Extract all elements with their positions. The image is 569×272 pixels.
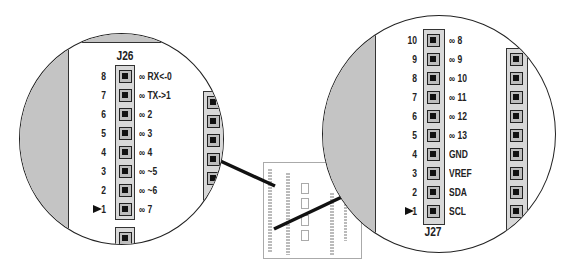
pin-pad bbox=[119, 70, 132, 83]
pin-number: 9 bbox=[398, 54, 417, 66]
pin-pad bbox=[119, 146, 132, 159]
header-title-j26: J26 bbox=[117, 49, 134, 63]
pin-label: ∞ RX<-0 bbox=[139, 71, 172, 83]
pin-pad bbox=[119, 89, 132, 102]
pin-pad bbox=[207, 115, 220, 128]
pin-label: ∞ 3 bbox=[139, 128, 152, 140]
pin-pad bbox=[427, 72, 440, 85]
pin-pad bbox=[510, 205, 523, 218]
pin-label: SCL bbox=[449, 206, 466, 218]
pin-pad bbox=[207, 172, 220, 185]
pin-pad bbox=[427, 53, 440, 66]
pin-number: 1 bbox=[398, 206, 417, 218]
pin-pad bbox=[119, 203, 132, 216]
pin-number: 5 bbox=[398, 130, 417, 142]
board-edge-left bbox=[20, 34, 69, 245]
pin-number: 6 bbox=[87, 109, 106, 121]
pin-label: ∞ 10 bbox=[449, 73, 467, 85]
pin-pad bbox=[207, 96, 220, 109]
pin-pad bbox=[510, 91, 523, 104]
pin-pad bbox=[427, 129, 440, 142]
pin-number: 4 bbox=[398, 149, 417, 161]
pin-number: 1 bbox=[87, 204, 106, 216]
pin-pad bbox=[510, 167, 523, 180]
pin-number: 7 bbox=[398, 92, 417, 104]
pin-number: 2 bbox=[87, 185, 106, 197]
board-edge-left bbox=[323, 16, 376, 253]
pin-label: ∞ 9 bbox=[449, 54, 462, 66]
left-magnifier-circle: J26 8 ∞ RX<-0 7 ∞ TX->1 6 ∞ 2 5 ∞ 3 4 ∞ … bbox=[19, 33, 224, 245]
pin-label: ∞ ~5 bbox=[139, 166, 157, 178]
pin-label: ∞ 12 bbox=[449, 111, 467, 123]
pin-label: ∞ 8 bbox=[449, 35, 462, 47]
pin-pad bbox=[510, 110, 523, 123]
header-title-j27: J27 bbox=[425, 225, 442, 239]
pin-label: ∞ 2 bbox=[139, 109, 152, 121]
pin-pad bbox=[207, 153, 220, 166]
pin-label: ∞ 11 bbox=[449, 92, 466, 104]
pin-number: 8 bbox=[87, 71, 106, 83]
pin-number: 3 bbox=[87, 166, 106, 178]
pin-number: 6 bbox=[398, 111, 417, 123]
pin-pad bbox=[119, 184, 132, 197]
pin-number: 3 bbox=[398, 168, 417, 180]
left-callout-line bbox=[216, 159, 275, 186]
pin-number: 2 bbox=[398, 187, 417, 199]
pin-label: ∞ 4 bbox=[139, 147, 152, 159]
pin-pad bbox=[119, 165, 132, 178]
pin-pad bbox=[207, 134, 220, 147]
pin-pad bbox=[510, 129, 523, 142]
pin-number: 7 bbox=[87, 90, 106, 102]
pin-pad bbox=[427, 167, 440, 180]
pin-pad bbox=[427, 34, 440, 47]
pin-pad bbox=[427, 205, 440, 218]
right-magnifier-circle: 10 ∞ 8 9 ∞ 9 8 ∞ 10 7 ∞ 11 6 ∞ 12 5 ∞ 13… bbox=[322, 15, 556, 253]
pin-pad bbox=[427, 186, 440, 199]
pin-label: ∞ 7 bbox=[139, 204, 152, 216]
pin-pad bbox=[427, 110, 440, 123]
pin-label: ∞ TX->1 bbox=[139, 90, 171, 102]
pin-label: VREF bbox=[449, 168, 472, 180]
pin-pad bbox=[510, 72, 523, 85]
pin-pad bbox=[119, 108, 132, 121]
pin-pad bbox=[510, 148, 523, 161]
pin-label: ∞ 13 bbox=[449, 130, 467, 142]
pin-pad bbox=[119, 127, 132, 140]
pin-label: ∞ ~6 bbox=[139, 185, 157, 197]
pin-pad bbox=[510, 186, 523, 199]
pin-number: 8 bbox=[398, 73, 417, 85]
board-edge-top bbox=[68, 34, 224, 43]
pin-pad bbox=[427, 91, 440, 104]
pin-number: 10 bbox=[398, 35, 417, 47]
pin-pad bbox=[119, 232, 132, 245]
pin-pad bbox=[510, 53, 523, 66]
pin-number: 5 bbox=[87, 128, 106, 140]
pin-number: 4 bbox=[87, 147, 106, 159]
pin-pad bbox=[427, 148, 440, 161]
pin-label: GND bbox=[449, 149, 468, 161]
pin-label: SDA bbox=[449, 187, 467, 199]
